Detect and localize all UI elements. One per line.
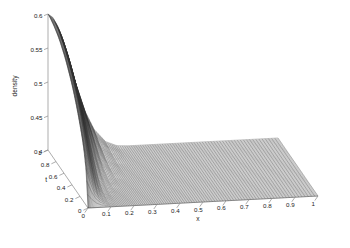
z-axis-label: density bbox=[11, 75, 19, 97]
tick-label: 0.6 bbox=[49, 173, 58, 180]
tick-label: 1 bbox=[312, 200, 316, 207]
x-axis-label: x bbox=[196, 215, 200, 222]
tick-label: 0 bbox=[82, 212, 86, 219]
tick-label: 0.3 bbox=[148, 208, 157, 215]
tick-label: 0.4 bbox=[34, 148, 43, 155]
tick-label: 0.6 bbox=[34, 12, 43, 19]
tick-label: 0.2 bbox=[125, 209, 134, 216]
tick-label: 0.55 bbox=[30, 46, 43, 53]
y-axis-label: t bbox=[45, 176, 47, 183]
figure-canvas: 00.10.20.30.40.50.60.70.80.91x00.20.40.6… bbox=[0, 0, 350, 248]
tick-label: 0.8 bbox=[263, 202, 272, 209]
mesh-wireframe bbox=[48, 14, 318, 208]
surface-mesh bbox=[48, 14, 318, 208]
tick-label: 0.5 bbox=[34, 80, 43, 87]
tick-label: 0.5 bbox=[194, 206, 203, 213]
tick-label: 0.7 bbox=[240, 203, 249, 210]
tick-label: 0.1 bbox=[102, 210, 111, 217]
tick-label: 0.8 bbox=[41, 161, 50, 168]
tick-label: 0.4 bbox=[171, 207, 180, 214]
surface-plot: 00.10.20.30.40.50.60.70.80.91x00.20.40.6… bbox=[0, 0, 350, 248]
tick-label: 0 bbox=[78, 207, 82, 214]
tick-label: 0.2 bbox=[65, 196, 74, 203]
tick-label: 0.4 bbox=[57, 184, 66, 191]
tick-label: 0.45 bbox=[30, 114, 43, 121]
tick-label: 0.9 bbox=[286, 201, 295, 208]
tick-label: 0.6 bbox=[217, 204, 226, 211]
